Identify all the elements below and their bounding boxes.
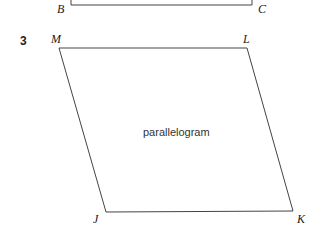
vertex-label-l: L — [243, 33, 250, 45]
previous-figure-edge — [71, 0, 252, 5]
vertex-label-m: M — [51, 33, 61, 45]
geometry-figures — [0, 0, 313, 227]
vertex-label-k: K — [297, 213, 305, 225]
vertex-label-b: B — [57, 3, 64, 15]
shape-name-label: parallelogram — [143, 127, 210, 138]
vertex-label-j: J — [93, 213, 98, 225]
question-number: 3 — [20, 35, 27, 47]
vertex-label-c: C — [258, 3, 266, 15]
